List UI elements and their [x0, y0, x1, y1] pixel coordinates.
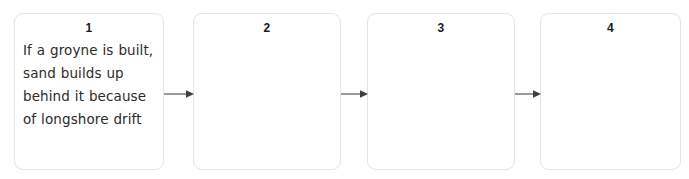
step-box-3[interactable]: 3 — [367, 13, 515, 170]
step-number-3: 3 — [368, 21, 514, 35]
step-box-2[interactable]: 2 — [193, 13, 341, 170]
step-number-1: 1 — [15, 21, 163, 35]
step-text-1: If a groyne is built, sand builds up beh… — [23, 39, 157, 131]
step-number-2: 2 — [194, 21, 340, 35]
step-number-4: 4 — [541, 21, 680, 35]
step-box-4[interactable]: 4 — [540, 13, 681, 170]
arrow-3-to-4-icon — [515, 87, 541, 101]
arrow-1-to-2-icon — [164, 87, 194, 101]
sequence-flow-diagram: 1 If a groyne is built, sand builds up b… — [0, 0, 689, 179]
arrow-2-to-3-icon — [341, 87, 368, 101]
step-box-1[interactable]: 1 If a groyne is built, sand builds up b… — [14, 13, 164, 170]
